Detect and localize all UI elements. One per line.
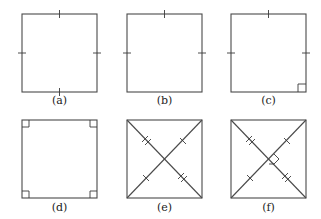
single-tick <box>284 138 290 144</box>
figure-d: (d) <box>22 120 97 214</box>
right-angle-icon <box>22 191 29 198</box>
figure-label-d: (d) <box>52 201 68 214</box>
figure-label-b: (b) <box>157 94 173 107</box>
right-angle-icon <box>269 154 279 164</box>
square-d <box>22 120 97 198</box>
figure-label-e: (e) <box>157 201 172 214</box>
figure-b: (b) <box>123 10 206 107</box>
figure-label-c: (c) <box>261 94 276 107</box>
square-a <box>22 14 97 92</box>
figure-f: (f) <box>231 120 306 214</box>
right-angle-icon <box>90 120 97 127</box>
right-angle-icon <box>298 84 306 92</box>
figure-e: (e) <box>127 120 202 214</box>
right-angle-icon <box>22 120 29 127</box>
right-angle-icon <box>90 191 97 198</box>
figure-label-f: (f) <box>262 201 275 214</box>
figure-a: (a) <box>18 10 101 107</box>
figure-c: (c) <box>227 10 310 107</box>
square-c <box>231 14 306 92</box>
figure-label-a: (a) <box>52 94 67 107</box>
square-b <box>127 14 202 92</box>
quadrilateral-figures-diagram: (a) (b) (c) (d) (e) <box>0 0 321 219</box>
single-tick <box>180 138 186 144</box>
